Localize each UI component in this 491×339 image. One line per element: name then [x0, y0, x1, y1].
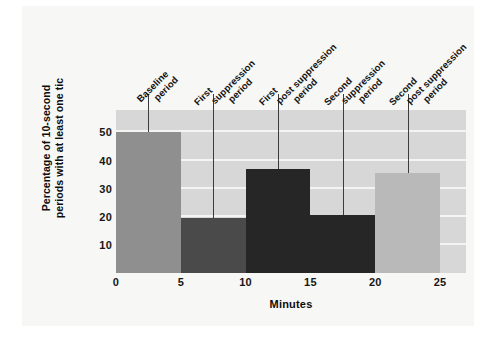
chart-background-panel: Percentage of 10-second periods with at … — [22, 6, 474, 326]
y-tick-label-10: 10 — [68, 239, 112, 251]
bar-4 — [375, 173, 440, 273]
x-tick-label-10: 10 — [226, 276, 266, 288]
figure-panel: Percentage of 10-second periods with at … — [0, 0, 491, 339]
y-tick-label-30: 30 — [68, 183, 112, 195]
x-tick-label-25: 25 — [420, 276, 460, 288]
y-axis-label: Percentage of 10-second periods with at … — [40, 68, 66, 228]
bar-1 — [181, 218, 246, 273]
bar-2 — [246, 169, 311, 273]
y-tick-label-20: 20 — [68, 211, 112, 223]
x-tick-label-20: 20 — [355, 276, 395, 288]
y-axis-label-line-2: with at least one tic — [53, 78, 65, 177]
x-tick-label-15: 15 — [290, 276, 330, 288]
x-tick-label-0: 0 — [96, 276, 136, 288]
y-axis-ticks: 1020304050 — [66, 110, 112, 273]
y-tick-label-50: 50 — [68, 126, 112, 138]
y-tick-label-40: 40 — [68, 155, 112, 167]
plot-area — [116, 110, 466, 273]
x-tick-label-5: 5 — [161, 276, 201, 288]
bar-3 — [310, 215, 375, 273]
callout-label-0: Baselineperiod — [135, 66, 181, 112]
bar-0 — [116, 132, 181, 273]
x-axis-label: Minutes — [116, 298, 466, 310]
x-axis-ticks: 0510152025 — [116, 276, 466, 296]
